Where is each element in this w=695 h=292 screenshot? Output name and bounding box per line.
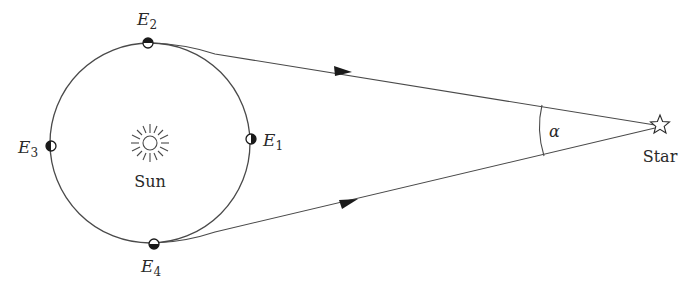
earth-marker-e3 xyxy=(46,141,56,151)
sight-line-e4-star xyxy=(155,128,655,243)
star-outline-icon xyxy=(651,115,670,133)
angle-arc xyxy=(539,105,544,156)
earth-marker-e1 xyxy=(246,134,256,144)
earth-label-e4: E4 xyxy=(140,256,161,279)
star-label: Star xyxy=(643,147,678,166)
sun-icon xyxy=(131,124,169,162)
arrow-icon xyxy=(339,199,358,209)
earth-marker-e4 xyxy=(149,239,159,249)
earth-label-e3: E3 xyxy=(17,137,38,160)
earth-label-e2: E2 xyxy=(136,9,157,32)
sight-line-e2-star xyxy=(150,43,655,125)
parallax-diagram: α Sun E2 E1 E3 xyxy=(0,0,695,292)
earth-marker-e2 xyxy=(143,38,153,48)
sun-label: Sun xyxy=(134,172,166,191)
earth-label-e1: E1 xyxy=(262,130,283,153)
angle-label: α xyxy=(549,122,560,141)
